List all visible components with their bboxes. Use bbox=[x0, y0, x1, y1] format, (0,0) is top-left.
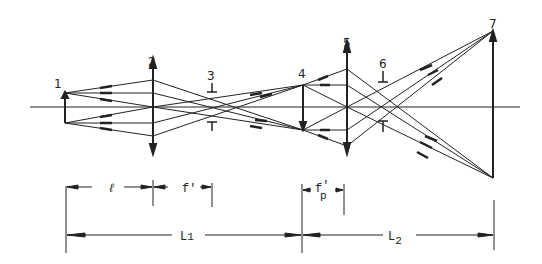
label-3: 3 bbox=[207, 69, 215, 83]
label-7: 7 bbox=[489, 17, 497, 31]
optical-ray-diagram: 1 2 3 4 5 6 7 ℓ f' f'p L1 L2 bbox=[0, 0, 542, 264]
rays-section-1 bbox=[65, 80, 153, 136]
dimension-row-2 bbox=[67, 233, 493, 237]
dim-label-L1: L1 bbox=[180, 230, 194, 244]
label-1: 1 bbox=[54, 77, 62, 91]
L2-base: L bbox=[388, 230, 395, 244]
image-7 bbox=[490, 31, 496, 178]
label-5: 5 bbox=[343, 36, 351, 50]
lens-2 bbox=[150, 58, 156, 154]
dim-label-l: ℓ bbox=[108, 182, 115, 196]
L2-sub: 2 bbox=[395, 235, 402, 247]
fp-sub: p bbox=[320, 190, 327, 202]
L1-base: L bbox=[180, 230, 187, 244]
label-2: 2 bbox=[148, 55, 156, 69]
L1-sub: 1 bbox=[187, 231, 194, 243]
dimension-extension-lines bbox=[66, 180, 494, 253]
rays-section-4 bbox=[347, 31, 493, 178]
label-4: 4 bbox=[298, 67, 306, 81]
rays-section-2 bbox=[153, 80, 303, 136]
dim-label-L2: L2 bbox=[388, 230, 402, 247]
dim-label-fp-prime: f'p bbox=[315, 179, 329, 202]
lens-5 bbox=[344, 41, 350, 154]
label-6: 6 bbox=[379, 57, 387, 71]
dim-label-f-prime: f' bbox=[182, 182, 196, 196]
